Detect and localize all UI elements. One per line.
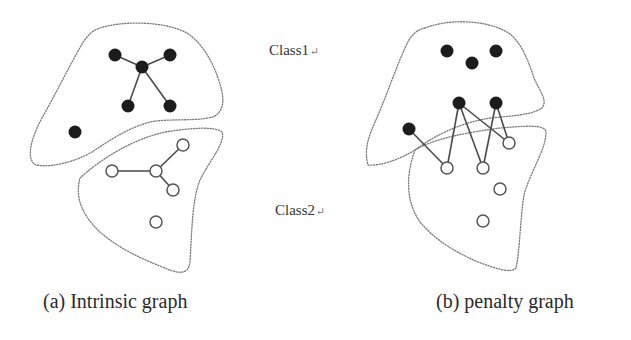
penalty-class2-node xyxy=(477,215,489,227)
return-mark-icon: ↵ xyxy=(310,45,319,57)
penalty-class1-node xyxy=(490,97,503,110)
class2-label-text: Class2 xyxy=(275,202,315,218)
penalty-edge xyxy=(409,129,447,168)
class1-label: Class1↵ xyxy=(269,42,319,59)
penalty-class1-node xyxy=(490,45,503,58)
return-mark-icon: ↵ xyxy=(316,205,325,217)
intrinsic-class1-node xyxy=(164,49,177,62)
intrinsic-class1-node xyxy=(136,61,149,74)
caption-penalty-graph: (b) penalty graph xyxy=(436,290,574,313)
intrinsic-class2-node xyxy=(150,165,162,177)
penalty-class2-node xyxy=(494,183,506,195)
intrinsic-edge xyxy=(142,67,170,106)
penalty-class1-node xyxy=(403,123,416,136)
intrinsic-class2-node xyxy=(167,184,179,196)
penalty-class1-node xyxy=(441,45,454,58)
penalty-class2-region xyxy=(409,126,546,270)
intrinsic-class1-node xyxy=(109,49,122,62)
intrinsic-class2-region xyxy=(78,128,222,272)
intrinsic-class2-node xyxy=(177,139,189,151)
penalty-class2-node xyxy=(503,137,515,149)
penalty-edge xyxy=(483,103,496,168)
intrinsic-class1-node xyxy=(69,126,82,139)
penalty-class1-node xyxy=(466,57,479,70)
class2-label: Class2↵ xyxy=(275,202,325,219)
intrinsic-class1-region xyxy=(30,23,223,166)
penalty-class2-node xyxy=(441,162,453,174)
intrinsic-class2-node xyxy=(106,165,118,177)
penalty-class1-node xyxy=(453,97,466,110)
penalty-class2-node xyxy=(477,162,489,174)
intrinsic-class2-node xyxy=(150,216,162,228)
intrinsic-class1-node xyxy=(122,100,135,113)
nodes-layer xyxy=(69,45,516,229)
penalty-class1-region xyxy=(366,22,544,165)
class1-label-text: Class1 xyxy=(269,42,309,58)
intrinsic-class1-node xyxy=(164,100,177,113)
caption-intrinsic-graph: (a) Intrinsic graph xyxy=(43,290,187,313)
